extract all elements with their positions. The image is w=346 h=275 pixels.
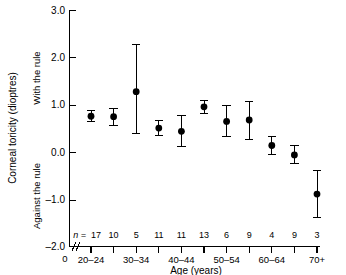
y-tick-label-3: 3.0	[51, 5, 65, 16]
y-tick-label-2: 2.0	[51, 52, 65, 63]
origin-label: 0	[62, 253, 67, 264]
data-point-marker	[155, 125, 162, 132]
y-axis-title: Corneal toricity (dioptres)	[7, 72, 18, 184]
n-value-7: 9	[247, 230, 252, 240]
x-axis-title: Age (years)	[170, 265, 222, 275]
y-tick-label-neg1: –1.0	[46, 194, 66, 205]
n-value-1: 10	[109, 230, 119, 240]
data-point-marker	[88, 113, 95, 120]
region-label-against-the-rule: Against the rule	[31, 163, 42, 229]
data-point-marker	[201, 103, 208, 110]
corneal-toricity-scatter-plot: 3.0 2.0 1.0 0.0 –1.0 –2.0 0 20–24 30–34 …	[0, 0, 346, 275]
n-value-5: 13	[199, 230, 209, 240]
n-value-10: 3	[314, 230, 319, 240]
y-tick-label-0: 0.0	[51, 147, 65, 158]
data-series	[87, 44, 321, 217]
n-value-3: 11	[154, 230, 163, 240]
data-point-group	[268, 136, 276, 154]
chart-figure: 3.0 2.0 1.0 0.0 –1.0 –2.0 0 20–24 30–34 …	[0, 0, 346, 275]
data-point-group	[290, 146, 298, 164]
data-point-group	[132, 44, 140, 133]
data-point-group	[177, 116, 185, 147]
data-point-marker	[291, 152, 298, 159]
y-tick-label-neg2: –2.0	[46, 241, 66, 252]
x-tick-label-70plus: 70+	[309, 254, 326, 265]
data-point-marker	[314, 191, 321, 198]
region-label-with-the-rule: With the rule	[31, 51, 42, 104]
x-tick-label-50-54: 50–54	[213, 254, 239, 265]
data-point-marker	[178, 128, 185, 135]
data-point-marker	[246, 117, 253, 124]
data-point-group	[87, 110, 95, 122]
data-point-marker	[268, 142, 275, 149]
n-value-0: 17	[91, 230, 101, 240]
x-axis-ticks	[91, 247, 317, 253]
data-point-group	[109, 108, 117, 125]
n-prefix-label: n =	[73, 230, 86, 240]
n-value-4: 11	[177, 230, 186, 240]
n-value-9: 9	[292, 230, 297, 240]
data-point-marker	[110, 113, 117, 120]
x-tick-label-60-64: 60–64	[259, 254, 285, 265]
data-point-group	[313, 171, 321, 218]
x-tick-label-20-24: 20–24	[78, 254, 104, 265]
n-value-8: 4	[269, 230, 274, 240]
y-tick-label-1: 1.0	[51, 99, 65, 110]
data-point-group	[222, 106, 230, 137]
data-point-group	[245, 101, 253, 139]
data-point-marker	[223, 118, 230, 125]
x-tick-label-40-44: 40–44	[168, 254, 194, 265]
data-point-group	[155, 121, 163, 136]
x-tick-label-30-34: 30–34	[123, 254, 149, 265]
data-point-marker	[133, 88, 140, 95]
n-value-2: 5	[134, 230, 139, 240]
data-point-group	[200, 100, 208, 113]
y-axis-ticks	[70, 11, 76, 247]
n-value-6: 6	[224, 230, 229, 240]
